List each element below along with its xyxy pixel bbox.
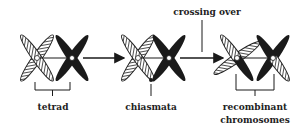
tetrad-group: [17, 32, 91, 96]
chiasma-point: [149, 78, 153, 82]
crossing-over-label: crossing over: [172, 6, 242, 18]
chiasmata-label: chiasmata: [120, 101, 182, 113]
recombinant-label: recombinant: [220, 101, 290, 113]
tetrad-label: tetrad: [22, 101, 84, 113]
recombinant-group: [211, 32, 292, 96]
recombinant-bracket: [236, 74, 274, 90]
tetrad-bracket: [35, 82, 70, 90]
chiasmata-group: [118, 32, 188, 96]
chromosomes-label: chromosomes: [220, 114, 290, 126]
